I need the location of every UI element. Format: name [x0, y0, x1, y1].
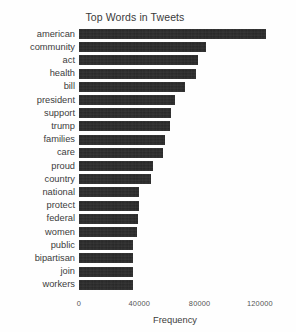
- bar-rect: [79, 29, 266, 39]
- y-axis-tick-label: bipartisan: [0, 253, 75, 263]
- bar: [79, 69, 196, 79]
- y-axis-tick-label: american: [0, 29, 75, 39]
- y-axis-tick-label: join: [0, 266, 75, 276]
- y-axis-tick-label: support: [0, 108, 75, 118]
- chart-title: Top Words in Tweets: [0, 11, 270, 23]
- y-axis-tick-label: federal: [0, 213, 75, 223]
- bar-rect: [79, 187, 139, 197]
- bar: [79, 108, 171, 118]
- bar: [79, 174, 151, 184]
- x-axis-tick-label: 0: [77, 299, 81, 308]
- bar-rect: [79, 253, 133, 263]
- bar: [79, 201, 139, 211]
- y-axis-tick-label: national: [0, 187, 75, 197]
- plot-area: [79, 29, 275, 293]
- y-axis-tick-label: act: [0, 55, 75, 65]
- x-axis-title: Frequency: [79, 315, 271, 325]
- bar: [79, 227, 137, 237]
- bar-rect: [79, 227, 137, 237]
- bar-rect: [79, 280, 133, 290]
- bar-rect: [79, 108, 171, 118]
- x-axis-tick-label: 40000: [129, 299, 151, 308]
- y-axis-tick-label: proud: [0, 161, 75, 171]
- y-axis-tick-label: president: [0, 95, 75, 105]
- y-axis-tick-label: public: [0, 240, 75, 250]
- y-axis-tick-label: trump: [0, 121, 75, 131]
- bar-rect: [79, 240, 133, 250]
- bar-rect: [79, 95, 175, 105]
- y-axis-tick-label: bill: [0, 81, 75, 91]
- bar: [79, 280, 133, 290]
- bar-rect: [79, 267, 133, 277]
- y-axis-tick-labels: americancommunityacthealthbillpresidents…: [0, 29, 75, 293]
- y-axis-tick-label: care: [0, 147, 75, 157]
- y-axis-tick-label: families: [0, 134, 75, 144]
- bar-rect: [79, 174, 151, 184]
- y-axis-tick-label: protect: [0, 200, 75, 210]
- y-axis-tick-label: health: [0, 68, 75, 78]
- bar: [79, 95, 175, 105]
- bar: [79, 240, 133, 250]
- bar-rect: [79, 148, 163, 158]
- x-axis-tick-label: 80000: [189, 299, 211, 308]
- bar-rect: [79, 135, 165, 145]
- y-axis-tick-label: community: [0, 42, 75, 52]
- bar: [79, 82, 185, 92]
- bar-chart-figure: Top Words in Tweets americancommunityact…: [0, 0, 296, 332]
- bar: [79, 267, 133, 277]
- bar: [79, 253, 133, 263]
- y-axis-tick-label: women: [0, 227, 75, 237]
- bar-rect: [79, 69, 196, 79]
- bar: [79, 161, 153, 171]
- bar-rect: [79, 214, 138, 224]
- bar-rect: [79, 121, 170, 131]
- bar-rect: [79, 82, 185, 92]
- bar-rect: [79, 55, 198, 65]
- bar: [79, 121, 170, 131]
- bar: [79, 42, 206, 52]
- bar: [79, 135, 165, 145]
- bar: [79, 214, 138, 224]
- bar-rect: [79, 42, 206, 52]
- bar: [79, 187, 139, 197]
- bar-rect: [79, 201, 139, 211]
- bar: [79, 55, 198, 65]
- bar: [79, 29, 266, 39]
- x-axis-tick-label: 120000: [247, 299, 273, 308]
- y-axis-tick-label: workers: [0, 279, 75, 289]
- x-axis-tick-labels: 04000080000120000: [79, 299, 279, 311]
- bar-rect: [79, 161, 153, 171]
- bar: [79, 148, 163, 158]
- y-axis-tick-label: country: [0, 174, 75, 184]
